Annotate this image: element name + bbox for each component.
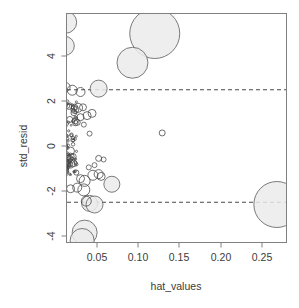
- cluster-point-20: [58, 162, 60, 164]
- cluster-point-181: [58, 124, 60, 126]
- cluster-point-131: [58, 121, 62, 125]
- cluster-point-90: [59, 137, 62, 140]
- cluster-point-17: [56, 130, 63, 137]
- y-tick-label-3: -2: [45, 186, 57, 195]
- data-point-33: [74, 119, 80, 125]
- dense-point-cluster: [56, 101, 79, 177]
- cluster-point-70: [59, 142, 61, 144]
- x-tick-label-3: 0.20: [211, 251, 232, 263]
- cluster-point-188: [75, 101, 77, 103]
- data-point-4: [254, 182, 299, 228]
- cluster-point-77: [60, 156, 62, 158]
- cluster-point-37: [61, 142, 63, 144]
- cluster-point-38: [58, 148, 61, 151]
- cluster-point-3: [62, 167, 64, 169]
- cluster-point-171: [61, 154, 63, 156]
- cluster-point-54: [58, 145, 60, 147]
- cluster-point-87: [59, 107, 61, 109]
- cluster-point-162: [60, 170, 65, 175]
- plot-svg: 0.05 0.10 0.15 0.20 0.25 hat_values 4 2 …: [0, 0, 299, 308]
- cluster-point-104: [61, 132, 63, 134]
- cluster-point-121: [59, 170, 64, 175]
- x-axis: 0.05 0.10 0.15 0.20 0.25 hat_values: [87, 243, 273, 293]
- cluster-point-111: [64, 130, 66, 132]
- data-point-39: [92, 163, 97, 168]
- cluster-point-69: [63, 168, 66, 171]
- cluster-point-143: [62, 156, 66, 160]
- cluster-point-183: [68, 130, 70, 132]
- y-tick-label-0: 4: [45, 53, 57, 59]
- cluster-point-154: [64, 140, 66, 142]
- data-point-27: [88, 109, 96, 117]
- cluster-point-134: [60, 172, 65, 177]
- cluster-point-58: [59, 132, 61, 134]
- y-tick-label-1: 2: [45, 98, 57, 104]
- y-tick-label-4: -4: [45, 231, 57, 240]
- x-tick-label-0: 0.05: [87, 251, 108, 263]
- cluster-point-127: [61, 171, 66, 176]
- cluster-point-85: [58, 104, 64, 110]
- data-point-6: [70, 229, 94, 253]
- cluster-point-62: [59, 153, 61, 155]
- cluster-point-34: [59, 149, 62, 152]
- cluster-point-165: [61, 170, 63, 172]
- cluster-point-21: [64, 169, 66, 171]
- influence-plot: 0.05 0.10 0.15 0.20 0.25 hat_values 4 2 …: [0, 0, 299, 308]
- cluster-point-2: [61, 173, 65, 177]
- data-point-19: [97, 172, 105, 180]
- cluster-point-152: [60, 130, 63, 133]
- data-point-43: [62, 134, 66, 138]
- x-axis-title: hat_values: [151, 280, 202, 292]
- cluster-point-163: [64, 173, 66, 175]
- cluster-point-161: [58, 156, 61, 159]
- data-point-1: [55, 36, 74, 55]
- data-point-0: [55, 11, 77, 33]
- data-point-25: [79, 104, 86, 111]
- cluster-point-120: [63, 108, 65, 110]
- cluster-point-172: [63, 148, 65, 150]
- cluster-point-107: [59, 156, 64, 161]
- cluster-point-25: [58, 125, 60, 127]
- y-axis: 4 2 0 -2 -4 std_resid: [17, 53, 67, 241]
- y-tick-label-2: 0: [45, 143, 57, 149]
- cluster-point-182: [58, 119, 61, 122]
- cluster-point-45: [64, 155, 67, 158]
- cluster-point-82: [57, 131, 61, 135]
- cluster-point-15: [59, 162, 62, 165]
- cluster-point-88: [61, 109, 66, 114]
- cluster-point-167: [63, 166, 65, 168]
- cluster-point-136: [63, 134, 65, 136]
- cluster-point-144: [59, 162, 61, 164]
- cluster-point-93: [63, 155, 65, 157]
- cluster-point-113: [62, 172, 65, 175]
- cluster-point-22: [59, 117, 63, 121]
- cluster-point-153: [61, 161, 64, 164]
- cluster-point-175: [75, 135, 77, 137]
- x-tick-label-1: 0.10: [128, 251, 149, 263]
- cluster-point-174: [59, 102, 61, 104]
- cluster-point-26: [75, 150, 77, 152]
- cluster-point-40: [59, 150, 61, 152]
- cluster-point-9: [59, 122, 65, 128]
- cluster-point-30: [58, 134, 60, 136]
- data-point-7: [90, 80, 107, 97]
- cluster-point-184: [61, 117, 63, 119]
- data-point-3: [117, 47, 148, 78]
- cluster-point-36: [62, 109, 64, 111]
- cluster-point-23: [61, 167, 63, 169]
- cluster-point-126: [59, 159, 61, 161]
- cluster-point-92: [58, 160, 62, 164]
- reference-lines: [67, 90, 286, 203]
- cluster-point-50: [60, 134, 62, 136]
- cluster-point-115: [59, 166, 63, 170]
- data-point-37: [96, 155, 102, 161]
- data-point-22: [77, 175, 85, 183]
- data-point-17: [88, 170, 98, 180]
- cluster-point-49: [56, 109, 63, 116]
- data-point-34: [81, 122, 86, 127]
- cluster-point-13: [58, 161, 61, 164]
- cluster-point-42: [60, 155, 63, 158]
- cluster-point-35: [58, 146, 64, 152]
- cluster-point-14: [62, 141, 64, 143]
- cluster-point-180: [60, 167, 62, 169]
